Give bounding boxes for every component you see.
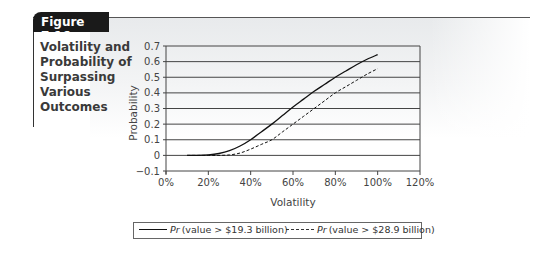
legend-text: (value > $19.3 billion)	[182, 224, 288, 235]
y-tick-label: 0.3	[144, 103, 160, 114]
solid-line-swatch-icon	[139, 229, 167, 230]
x-axis-label: Volatility	[270, 196, 315, 208]
x-tick-label: 60%	[282, 177, 304, 188]
legend-pr-label: Pr	[170, 224, 180, 235]
y-tick-label: 0.1	[144, 134, 160, 145]
x-tick-label: 100%	[363, 177, 392, 188]
y-tick-label: 0.7	[144, 41, 160, 52]
chart-legend: Pr (value > $19.3 billion) Pr (value > $…	[133, 222, 422, 239]
x-tick-labels: 0%20%40%60%80%100%120%	[158, 177, 434, 188]
x-tick-label: 40%	[240, 177, 262, 188]
gridlines	[166, 46, 420, 155]
y-tick-label: 0.2	[144, 119, 160, 130]
series-28-9-billion-line	[187, 69, 377, 156]
y-tick-label: 0.4	[144, 87, 160, 98]
y-tick-label: −0.1	[136, 166, 160, 177]
y-tick-label: 0	[154, 150, 160, 161]
x-tick-label: 120%	[406, 177, 435, 188]
legend-item-19-3-billion: Pr (value > $19.3 billion)	[139, 224, 288, 235]
y-tick-label: 0.6	[144, 56, 160, 67]
series-19-3-billion-line	[187, 55, 377, 156]
dashed-line-swatch-icon	[286, 229, 314, 230]
y-tick-labels: 0.70.60.50.40.30.20.10−0.1	[136, 41, 160, 177]
y-axis-label: Probability	[127, 85, 139, 141]
legend-text: (value > $28.9 billion)	[329, 224, 435, 235]
legend-pr-label: Pr	[317, 224, 327, 235]
x-tick-label: 20%	[197, 177, 219, 188]
legend-item-28-9-billion: Pr (value > $28.9 billion)	[286, 224, 435, 235]
x-tick-label: 80%	[324, 177, 346, 188]
data-series	[187, 55, 377, 156]
y-tick-label: 0.5	[144, 72, 160, 83]
x-tick-label: 0%	[158, 177, 174, 188]
